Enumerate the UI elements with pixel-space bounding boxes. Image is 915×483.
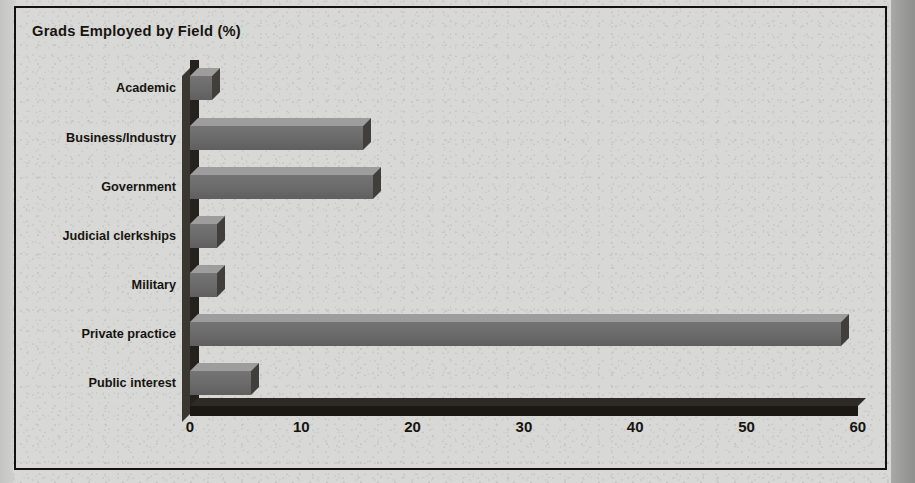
bar-side-face — [841, 314, 849, 346]
scanned-page-background: Grads Employed by Field (%) AcademicBusi… — [0, 0, 915, 483]
bar-side-face — [251, 363, 259, 395]
x-tick-30: 30 — [504, 418, 544, 435]
x-tick-40: 40 — [615, 418, 655, 435]
bar-top-face — [190, 314, 849, 322]
bar-side-face — [212, 68, 220, 100]
bar-front-face — [190, 371, 251, 395]
bar-front-face — [190, 224, 217, 248]
category-label-academic: Academic — [16, 80, 176, 95]
category-label-private-practice: Private practice — [16, 326, 176, 341]
x-tick-60: 60 — [838, 418, 878, 435]
category-label-public-interest: Public interest — [16, 375, 176, 390]
bar-front-face — [190, 76, 212, 100]
bar-front-face — [190, 175, 373, 199]
x-tick-20: 20 — [393, 418, 433, 435]
bar-front-face — [190, 273, 217, 297]
x-tick-50: 50 — [727, 418, 767, 435]
category-label-government: Government — [16, 179, 176, 194]
x-axis-line — [190, 406, 858, 416]
x-tick-10: 10 — [281, 418, 321, 435]
plot-area: AcademicBusiness/IndustryGovernmentJudic… — [0, 0, 915, 483]
bar-top-face — [190, 363, 259, 371]
category-label-military: Military — [16, 277, 176, 292]
bar-top-face — [190, 167, 381, 175]
x-tick-0: 0 — [170, 418, 210, 435]
bar-front-face — [190, 126, 363, 150]
bar-top-face — [190, 118, 371, 126]
category-label-judicial-clerkships: Judicial clerkships — [16, 228, 176, 243]
x-axis-top-face — [190, 398, 866, 406]
bar-front-face — [190, 322, 841, 346]
category-label-business-industry: Business/Industry — [16, 130, 176, 145]
y-axis-side-face — [182, 68, 190, 422]
